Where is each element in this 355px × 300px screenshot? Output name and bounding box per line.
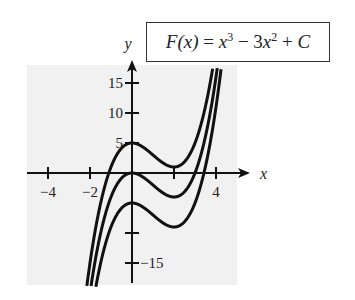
x-tick-label: −4 [40, 184, 56, 200]
x-tick-label: −2 [82, 184, 98, 200]
x-tick-label: 4 [212, 184, 220, 200]
y-tick-label: −15 [140, 255, 163, 271]
formula-text: F(x) = x3 − 3x2 + C [166, 30, 310, 53]
y-tick-label: 15 [108, 75, 123, 91]
x-axis-label: x [259, 165, 267, 182]
y-tick-label: 5 [116, 135, 124, 151]
formula-box: F(x) = x3 − 3x2 + C [146, 22, 330, 62]
y-tick-label: 10 [108, 105, 123, 121]
y-axis-label: y [122, 35, 132, 53]
